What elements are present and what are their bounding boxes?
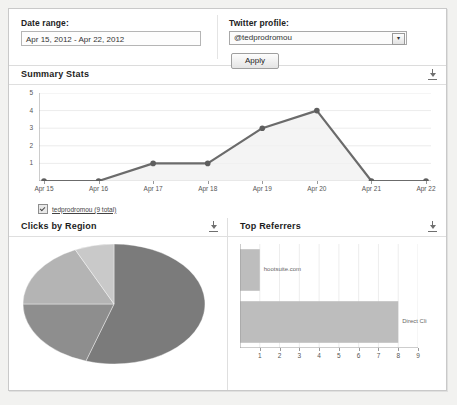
report-page: Date range: Apr 15, 2012 - Apr 22, 2012 … [8,8,447,391]
x-axis-tickmark [262,181,263,184]
x-axis-tick: 7 [370,352,386,359]
x-axis-tick: 6 [351,352,367,359]
x-axis-tick: Apr 21 [357,185,385,192]
x-axis-tickmark [299,348,300,351]
x-axis-tick: 1 [252,352,268,359]
x-axis-tick: Apr 16 [85,185,113,192]
y-axis-tick: 4 [15,107,33,114]
x-axis-tick: Apr 20 [303,185,331,192]
x-axis-tickmark [280,348,281,351]
x-axis-tickmark [426,181,427,184]
x-axis-tickmark [99,181,100,184]
x-axis-tick: 2 [272,352,288,359]
x-axis-tick: 3 [291,352,307,359]
summary-stats-header: Summary Stats [9,66,446,85]
x-axis-tickmark [260,348,261,351]
x-axis-tickmark [319,348,320,351]
x-axis-tick: Apr 19 [248,185,276,192]
download-icon[interactable] [209,221,218,232]
top-referrers-panel: Top Referrers 123456789 hootsuite.comDir… [228,218,446,390]
legend-label[interactable]: tedprodromou (9 total) [52,206,116,213]
x-axis-tickmark [317,181,318,184]
x-axis-tick: 4 [311,352,327,359]
twitter-profile-field: Twitter profile: @tedprodromou ▾ [229,18,409,45]
x-axis-tickmark [208,181,209,184]
line-chart-legend[interactable]: tedprodromou (9 total) [38,204,116,214]
legend-checkbox[interactable] [38,204,48,214]
x-axis-tickmark [44,181,45,184]
top-referrers-title: Top Referrers [240,221,301,231]
pie-chart [19,240,209,368]
clicks-by-region-header: Clicks by Region [9,218,227,237]
bar-label: hootsuite.com [264,266,301,272]
x-axis-tickmark [398,348,399,351]
bar[interactable] [240,249,260,291]
twitter-profile-value: @tedprodromou [230,32,406,42]
x-axis-tick: Apr 22 [412,185,440,192]
x-axis-tick: 9 [410,352,426,359]
x-axis-tickmark [418,348,419,351]
twitter-profile-label: Twitter profile: [229,18,409,28]
date-range-input[interactable]: Apr 15, 2012 - Apr 22, 2012 [21,31,201,46]
twitter-profile-select[interactable]: @tedprodromou ▾ [229,31,407,45]
y-axis-tick: 5 [15,89,33,96]
bar[interactable] [240,301,398,343]
x-axis-tick: Apr 17 [139,185,167,192]
bar-chart [240,244,418,348]
clicks-by-region-title: Clicks by Region [21,221,97,231]
chevron-down-icon[interactable]: ▾ [392,33,405,45]
x-axis-tickmark [153,181,154,184]
x-axis-tickmark [371,181,372,184]
x-axis-tick: Apr 15 [30,185,58,192]
top-referrers-header: Top Referrers [228,218,446,237]
bottom-charts: Clicks by Region Top Referrers 123456789… [9,218,446,390]
summary-stats-title: Summary Stats [21,69,89,79]
date-range-field: Date range: Apr 15, 2012 - Apr 22, 2012 [21,18,203,46]
clicks-by-region-panel: Clicks by Region [9,218,228,390]
filter-divider [217,15,218,59]
bar-label: Direct Cli [402,318,426,324]
x-axis-tick: Apr 18 [194,185,222,192]
date-range-label: Date range: [21,18,203,28]
x-axis-tick: 8 [390,352,406,359]
y-axis-tick: 2 [15,142,33,149]
download-icon[interactable] [428,69,437,80]
x-axis-tickmark [339,348,340,351]
line-chart [39,93,431,181]
x-axis-tickmark [359,348,360,351]
download-icon[interactable] [428,221,437,232]
summary-stats-panel: 12345Apr 15Apr 16Apr 17Apr 18Apr 19Apr 2… [9,85,446,218]
x-axis-tickmark [378,348,379,351]
y-axis-tick: 1 [15,159,33,166]
y-axis-tick: 3 [15,124,33,131]
x-axis-tick: 5 [331,352,347,359]
filter-bar: Date range: Apr 15, 2012 - Apr 22, 2012 … [9,9,446,66]
